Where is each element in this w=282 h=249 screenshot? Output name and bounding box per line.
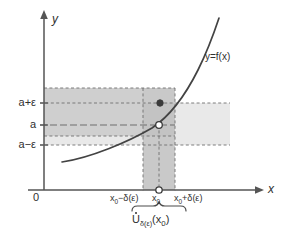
neighborhood-argument-close: ) [166,213,170,225]
x-tick-label-x0: x0 [152,194,160,203]
x-tick-rest: +δ(ε) [182,193,202,203]
y-axis-label: y [52,13,58,25]
y-tick-label-a-minus-eps: a−ε [8,139,36,150]
y-tick-label-a-plus-eps: a+ε [8,97,36,108]
neighborhood-argument-open: (x [152,213,161,225]
x-tick-label-x0-plus-delta: x0+δ(ε) [174,194,202,203]
limit-point-open [156,122,163,129]
x-axis-label: x [268,183,274,195]
figure-canvas [0,0,282,249]
x-axis-arrow [255,186,264,194]
y-axis-arrow [40,10,48,19]
neighborhood-radius-subscript: δ(ε) [140,219,152,228]
x-tick-label-x0-minus-delta: x0−δ(ε) [110,194,138,203]
x-tick-sub: 0 [157,198,161,205]
delta-neighborhood-label: Uδ(ε)(x0) [132,214,169,225]
curve-label: y=f(x) [205,52,230,62]
punctured-neighborhood-symbol: U [132,214,140,225]
limit-definition-figure: y x 0 a+ε a a−ε y=f(x) x0−δ(ε) x0 x0+δ(ε… [0,0,282,249]
x-tick-rest: −δ(ε) [118,193,138,203]
y-tick-label-a: a [8,119,36,130]
point-on-curve-filled [157,100,163,106]
origin-label: 0 [33,192,39,203]
